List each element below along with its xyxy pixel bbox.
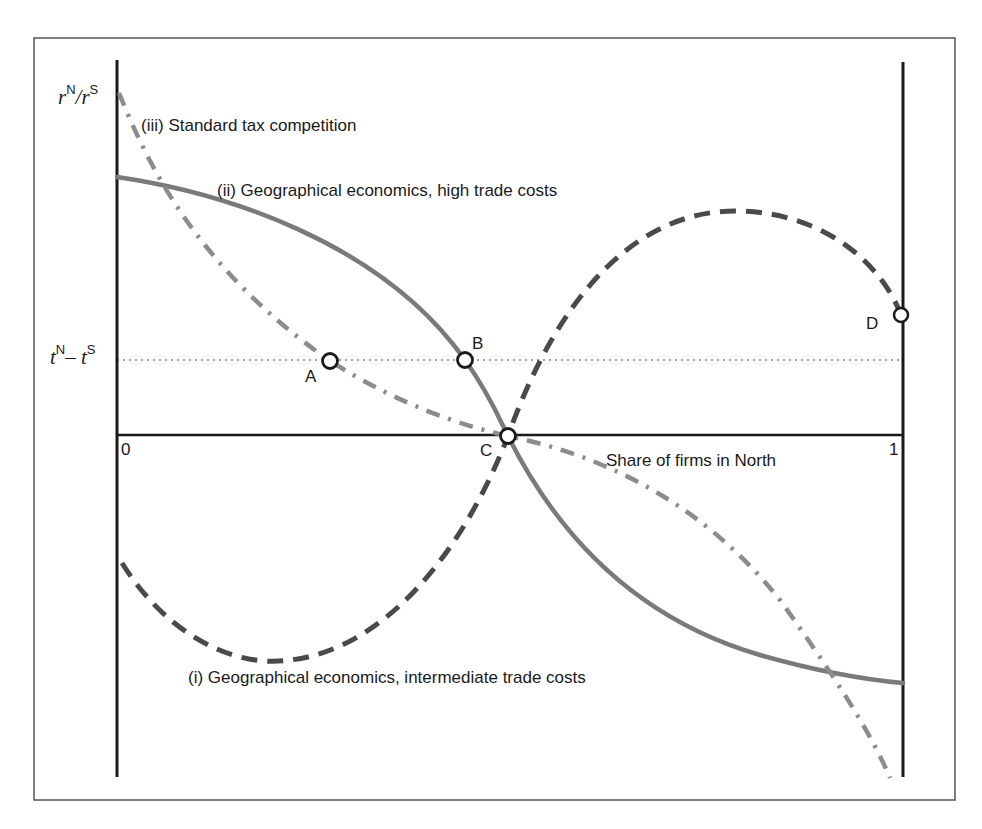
point-c-marker	[501, 429, 516, 444]
point-b-marker	[458, 353, 473, 368]
y-axis-label: rN/rS	[58, 84, 98, 110]
x-tick-one: 1	[889, 440, 898, 460]
x-axis-title: Share of firms in North	[606, 451, 776, 471]
x-tick-zero: 0	[121, 440, 130, 460]
point-c-label: C	[480, 441, 492, 461]
curve-ii-label: (ii) Geographical economics, high trade …	[217, 181, 557, 201]
curve-i-label: (i) Geographical economics, intermediate…	[188, 668, 586, 688]
curve-iii-label: (iii) Standard tax competition	[141, 116, 356, 136]
point-d-marker	[894, 308, 908, 322]
point-a-marker	[323, 354, 338, 369]
point-a-label: A	[305, 367, 316, 387]
point-d-label: D	[866, 314, 878, 334]
figure: rN/rS tN– tS 0 1 Share of firms in North…	[0, 0, 982, 829]
tax-gap-label: tN– tS	[50, 344, 96, 370]
point-b-label: B	[472, 334, 483, 354]
